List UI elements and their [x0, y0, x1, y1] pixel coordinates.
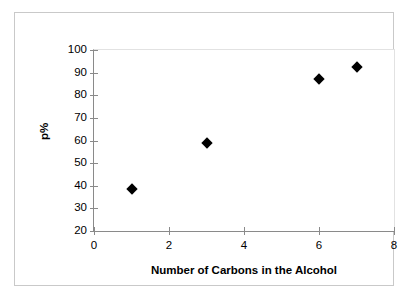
y-tick-mark	[90, 208, 98, 209]
y-tick-label: 80	[74, 90, 87, 102]
y-tick-mark	[90, 186, 98, 187]
y-tick-label: 100	[68, 44, 87, 56]
y-tick-label: 50	[74, 157, 87, 169]
x-tick-label: 8	[391, 240, 397, 252]
x-tick-mark	[244, 227, 245, 235]
y-tick-label: 90	[74, 67, 87, 79]
y-tick-label: 20	[74, 225, 87, 237]
plot-area: 203040506070809010002468	[93, 49, 395, 232]
x-tick-label: 2	[166, 240, 172, 252]
y-tick-mark	[90, 95, 98, 96]
x-axis-title: Number of Carbons in the Alcohol	[93, 265, 395, 277]
x-tick-label: 4	[241, 240, 247, 252]
x-tick-mark	[94, 227, 95, 235]
y-tick-label: 60	[74, 135, 87, 147]
data-point	[126, 183, 137, 194]
y-tick-mark	[90, 141, 98, 142]
y-axis-title: p%	[39, 123, 51, 140]
x-tick-mark	[319, 227, 320, 235]
y-tick-label: 40	[74, 180, 87, 192]
x-tick-mark	[394, 227, 395, 235]
data-point	[351, 61, 362, 72]
y-tick-mark	[90, 50, 98, 51]
x-tick-label: 0	[91, 240, 97, 252]
x-tick-label: 6	[316, 240, 322, 252]
chart-frame: 203040506070809010002468 p% Number of Ca…	[14, 12, 394, 286]
data-point	[313, 74, 324, 85]
y-tick-label: 30	[74, 203, 87, 215]
data-point	[201, 137, 212, 148]
x-tick-mark	[169, 227, 170, 235]
y-tick-label: 70	[74, 112, 87, 124]
y-tick-mark	[90, 163, 98, 164]
y-tick-mark	[90, 73, 98, 74]
y-tick-mark	[90, 118, 98, 119]
